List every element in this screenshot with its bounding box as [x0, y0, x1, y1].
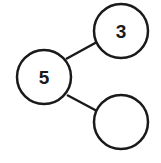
part-top-circle: 3: [94, 4, 148, 58]
part-top-value: 3: [116, 21, 127, 42]
connector-bottom: [67, 95, 97, 111]
connector-top: [66, 42, 97, 59]
number-bond-diagram: 3 5: [0, 0, 161, 163]
whole-value: 5: [39, 67, 50, 88]
part-bottom-circle[interactable]: [94, 95, 148, 149]
whole-circle: 5: [17, 50, 71, 104]
